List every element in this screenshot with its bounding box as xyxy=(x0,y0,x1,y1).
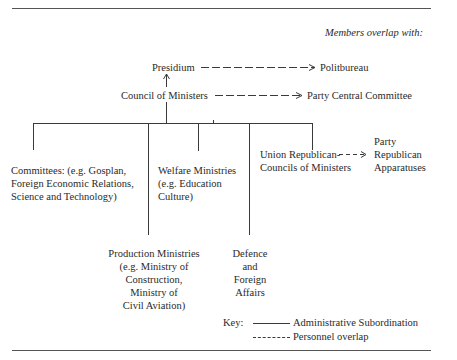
welfare-line-3: Culture) xyxy=(158,190,236,203)
key-solid-line xyxy=(253,323,290,324)
welfare-line-1: Welfare Ministries xyxy=(158,164,236,177)
production-line-4: Ministry of xyxy=(104,286,204,299)
production-line-3: Construction, xyxy=(104,273,204,286)
committees-line-2: Foreign Economic Relations, xyxy=(11,177,134,190)
node-production-ministries: Production Ministries (e.g. Ministry of … xyxy=(104,247,204,312)
branch-committees xyxy=(33,123,34,150)
committees-line-3: Science and Technology) xyxy=(11,190,134,203)
defence-line-3: Foreign xyxy=(224,273,276,286)
branch-production xyxy=(148,123,149,235)
defence-line-1: Defence xyxy=(224,247,276,260)
node-committees: Committees: (e.g. Gosplan, Foreign Econo… xyxy=(11,164,134,203)
production-line-2: (e.g. Ministry of xyxy=(104,260,204,273)
party-line-2: Republican xyxy=(374,148,426,161)
key-solid-text: Administrative Subordination xyxy=(293,316,418,329)
production-line-5: Civil Aviation) xyxy=(104,299,204,312)
branch-welfare xyxy=(198,123,199,151)
branch-defence xyxy=(249,123,250,235)
branch-bar xyxy=(33,123,312,124)
node-defence-foreign-affairs: Defence and Foreign Affairs xyxy=(224,247,276,299)
union-line-2: Councils of Ministers xyxy=(260,161,351,174)
union-line-1: Union Republican- xyxy=(260,148,351,161)
trunk-line xyxy=(166,102,167,123)
welfare-line-2: (e.g. Education xyxy=(158,177,236,190)
key-dashed-line xyxy=(253,337,290,338)
branch-welfare-tick xyxy=(213,120,214,123)
branch-union-republican xyxy=(312,123,313,150)
defence-line-2: and xyxy=(224,260,276,273)
key-dashed-text: Personnel overlap xyxy=(293,330,369,343)
defence-line-4: Affairs xyxy=(224,286,276,299)
node-welfare-ministries: Welfare Ministries (e.g. Education Cultu… xyxy=(158,164,236,203)
node-union-republican: Union Republican- Councils of Ministers xyxy=(260,148,351,174)
node-party-republican-apparatuses: Party Republican Apparatuses xyxy=(374,135,426,174)
key-label: Key: xyxy=(223,316,243,329)
party-line-1: Party xyxy=(374,135,426,148)
production-line-1: Production Ministries xyxy=(104,247,204,260)
committees-line-1: Committees: (e.g. Gosplan, xyxy=(11,164,134,177)
party-line-3: Apparatuses xyxy=(374,161,426,174)
